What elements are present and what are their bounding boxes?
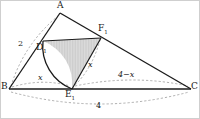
measure-label-ab: 2	[18, 40, 23, 48]
measure-label-be: x	[38, 74, 43, 82]
side-ab	[9, 13, 60, 89]
measure-label-ef: x	[88, 61, 93, 69]
vertex-label-E: E1	[65, 90, 75, 101]
measure-label-bc: 4	[96, 102, 101, 110]
vertex-label-D: D1	[36, 43, 47, 54]
vertex-label-F: F1	[98, 24, 108, 35]
vertex-label-B: B	[1, 82, 8, 93]
vertex-label-C: C	[191, 82, 198, 93]
arc-measure-ec	[75, 80, 188, 86]
measure-label-ec: 4−x	[118, 71, 134, 79]
geometry-figure: A B C D1 E1 F1 2 x 4−x x 4	[0, 0, 200, 119]
vertex-label-A: A	[57, 1, 64, 12]
